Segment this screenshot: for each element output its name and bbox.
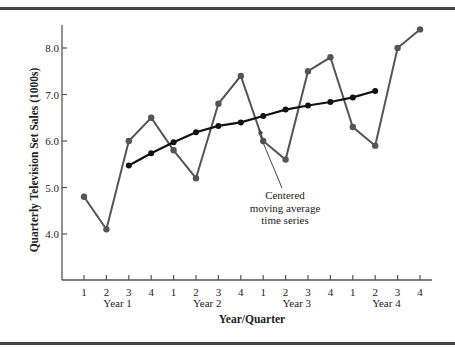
data-point-marker: [238, 73, 244, 79]
x-tick-label: 4: [148, 286, 154, 298]
year-group-label: Year 2: [193, 297, 222, 309]
x-tick-label: 1: [350, 286, 356, 298]
line-chart: [0, 0, 455, 347]
data-point-marker: [350, 94, 356, 100]
y-tick-label: 6.0: [45, 135, 59, 147]
data-point-marker: [238, 119, 244, 125]
data-point-marker: [305, 103, 311, 109]
moving-average-annotation: Centered moving average time series: [250, 189, 321, 227]
series-line-1: [129, 91, 375, 165]
data-point-marker: [283, 107, 289, 113]
y-axis-title: Quarterly Television Set Sales (1000s): [28, 68, 40, 253]
year-group-label: Year 1: [103, 297, 132, 309]
x-tick-label: 4: [328, 286, 334, 298]
data-point-marker: [372, 142, 378, 148]
data-point-marker: [305, 68, 311, 74]
annotation-line-3: time series: [250, 214, 321, 227]
data-point-marker: [282, 156, 288, 162]
year-group-label: Year 4: [372, 297, 401, 309]
x-tick-label: 1: [260, 286, 266, 298]
x-axis-title: Year/Quarter: [219, 313, 285, 325]
data-point-marker: [148, 150, 154, 156]
data-point-marker: [215, 123, 221, 129]
data-point-marker: [170, 147, 176, 153]
data-point-marker: [350, 124, 356, 130]
data-point-marker: [327, 99, 333, 105]
data-point-marker: [327, 54, 333, 60]
data-point-marker: [126, 138, 132, 144]
data-point-marker: [417, 26, 423, 32]
annotation-arrow-line: [259, 132, 282, 188]
x-tick-label: 1: [81, 286, 87, 298]
data-point-marker: [193, 175, 199, 181]
annotation-line-2: moving average: [250, 202, 321, 215]
x-tick-label: 4: [238, 286, 244, 298]
data-point-marker: [171, 139, 177, 145]
x-tick-label: 4: [417, 286, 423, 298]
data-point-marker: [148, 115, 154, 121]
data-point-marker: [103, 226, 109, 232]
data-point-marker: [81, 194, 87, 200]
y-tick-label: 8.0: [45, 42, 59, 54]
data-point-marker: [394, 45, 400, 51]
data-point-marker: [372, 88, 378, 94]
x-tick-label: 1: [171, 286, 177, 298]
annotation-arrow-head-icon: [259, 128, 264, 134]
data-point-marker: [260, 113, 266, 119]
annotation-line-1: Centered: [250, 189, 321, 202]
data-point-marker: [215, 101, 221, 107]
data-point-marker: [193, 129, 199, 135]
data-point-marker: [126, 162, 132, 168]
y-tick-label: 5.0: [45, 182, 59, 194]
y-tick-label: 7.0: [45, 89, 59, 101]
year-group-label: Year 3: [283, 297, 312, 309]
y-tick-label: 4.0: [45, 228, 59, 240]
